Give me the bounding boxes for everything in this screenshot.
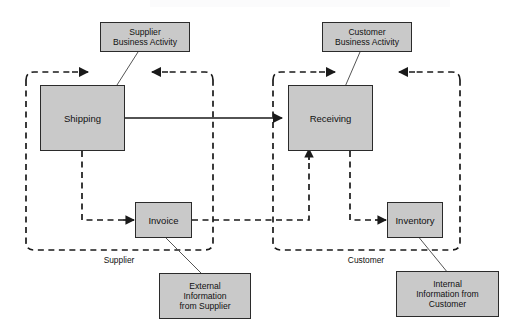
callout-customer-business-activity-label: Customer Business Activity [335, 27, 399, 47]
callout-internal-information-from-customer: Internal Information from Customer [396, 271, 499, 317]
process-box-invoice-label: Invoice [148, 215, 178, 226]
diagram-canvas: Supplier Business Activity Customer Busi… [0, 0, 506, 332]
callout-external-information-from-supplier-label: External Information from Supplier [179, 281, 230, 312]
process-box-shipping-label: Shipping [64, 113, 101, 124]
callout-customer-business-activity: Customer Business Activity [322, 22, 412, 52]
leader-internal-information-from-customer [417, 235, 448, 273]
process-box-shipping[interactable]: Shipping [40, 85, 125, 151]
process-box-receiving-label: Receiving [310, 113, 352, 124]
process-box-invoice[interactable]: Invoice [135, 202, 192, 238]
callout-supplier-business-activity: Supplier Business Activity [100, 22, 190, 52]
zone-label-supplier: Supplier [77, 255, 161, 265]
zone-label-customer-text: Customer [348, 255, 384, 265]
connector-shipping-to-invoice [82, 151, 134, 220]
callout-external-information-from-supplier: External Information from Supplier [159, 273, 251, 319]
process-box-receiving[interactable]: Receiving [288, 85, 373, 151]
zone-label-customer: Customer [324, 255, 408, 265]
zone-label-supplier-text: Supplier [104, 255, 135, 265]
callout-supplier-business-activity-label: Supplier Business Activity [113, 27, 177, 47]
process-box-inventory-label: Inventory [395, 215, 434, 226]
process-box-inventory[interactable]: Inventory [387, 202, 443, 238]
connector-invoice-to-receiving [192, 149, 309, 220]
callout-internal-information-from-customer-label: Internal Information from Customer [416, 279, 479, 310]
leader-external-information-from-supplier [163, 235, 203, 275]
connector-receiving-to-inventory [350, 151, 386, 220]
